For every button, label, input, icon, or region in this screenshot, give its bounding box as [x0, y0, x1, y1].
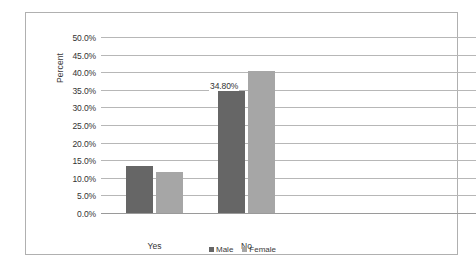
plot-area: 34.80% Yes No [101, 37, 476, 213]
y-tick-label: 45.0% [54, 51, 96, 61]
bar-no-male[interactable] [218, 91, 245, 214]
legend-label-male: Male [216, 245, 233, 254]
y-tick-label: 5.0% [54, 191, 96, 201]
y-tick-label: 35.0% [54, 86, 96, 96]
bar-yes-female[interactable] [156, 172, 183, 213]
chart-legend: Male Female [26, 245, 459, 254]
gridline-45 [101, 55, 476, 56]
gridline-30 [101, 107, 476, 108]
y-axis-tick-labels: 50.0% 45.0% 40.0% 35.0% 30.0% 25.0% 20.0… [52, 37, 96, 213]
gridline-20 [101, 143, 476, 144]
bar-no-female[interactable] [248, 71, 275, 213]
gridline-15 [101, 160, 476, 161]
y-tick-label: 15.0% [54, 156, 96, 166]
gridline-40 [101, 72, 476, 73]
y-tick-label: 20.0% [54, 139, 96, 149]
gridline-50 [101, 37, 476, 38]
y-tick-label: 25.0% [54, 121, 96, 131]
y-tick-label: 30.0% [54, 103, 96, 113]
legend-entry-female[interactable]: Female [242, 245, 276, 254]
legend-swatch-icon [209, 247, 214, 252]
y-tick-label: 40.0% [54, 68, 96, 78]
legend-swatch-icon [242, 247, 247, 252]
gridline-0 [101, 213, 476, 214]
chart-frame: Percent 50.0% 45.0% 40.0% 35.0% 30.0% 25… [25, 12, 458, 255]
legend-label-female: Female [249, 245, 276, 254]
gridline-25 [101, 125, 476, 126]
bar-yes-male[interactable] [126, 166, 153, 214]
gridline-35 [101, 90, 476, 91]
y-tick-label: 50.0% [54, 33, 96, 43]
legend-entry-male[interactable]: Male [209, 245, 233, 254]
y-tick-label: 10.0% [54, 174, 96, 184]
y-tick-label: 0.0% [54, 209, 96, 219]
data-label-no-male: 34.80% [209, 81, 239, 91]
